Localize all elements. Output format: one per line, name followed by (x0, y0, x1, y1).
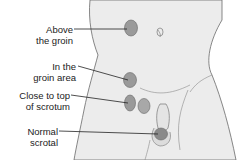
testis-extra (138, 99, 150, 114)
label-line: groin area (14, 72, 76, 83)
testis-groin-area (124, 73, 137, 88)
label-line: of scrotum (4, 101, 70, 112)
testis-above-groin (125, 20, 138, 36)
label-normal-scrotal: Normal scrotal (10, 126, 58, 148)
penis-shape (157, 104, 170, 131)
label-groin-area: In the groin area (14, 61, 76, 83)
label-line: Above (14, 24, 73, 35)
label-line: scrotal (10, 137, 58, 148)
label-top-scrotum: Close to top of scrotum (4, 90, 70, 112)
label-line: Close to top (4, 90, 70, 101)
label-above-groin: Above the groin (14, 24, 73, 46)
label-line: In the (14, 61, 76, 72)
label-line: Normal (10, 126, 58, 137)
label-line: the groin (14, 35, 73, 46)
